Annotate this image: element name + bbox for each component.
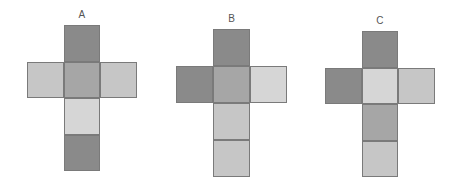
face-center [213, 66, 250, 103]
face-left [27, 62, 64, 99]
face-top [64, 25, 101, 62]
face-top [362, 31, 399, 68]
net-label: A [72, 9, 92, 20]
face-bottom2 [64, 135, 101, 172]
face-right [250, 66, 287, 103]
face-right [100, 62, 137, 99]
face-left [176, 66, 213, 103]
face-bottom1 [64, 98, 101, 135]
face-right [398, 68, 435, 105]
face-bottom2 [362, 141, 399, 178]
net-label: C [370, 15, 390, 26]
face-bottom2 [213, 140, 250, 177]
face-center [64, 62, 101, 99]
face-top [213, 29, 250, 66]
face-left [325, 68, 362, 105]
face-center [362, 68, 399, 105]
face-bottom1 [362, 104, 399, 141]
net-label: B [222, 13, 242, 24]
face-bottom1 [213, 103, 250, 140]
